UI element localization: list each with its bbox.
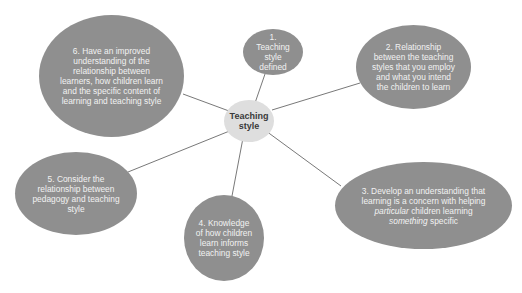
node-2-line: 2. Relationship: [372, 42, 455, 52]
node-1-line: 1.: [256, 32, 290, 42]
node-1-line: Teaching: [256, 42, 290, 52]
node-5-line: style: [32, 204, 119, 214]
node-6-line: relationship between: [60, 66, 163, 76]
node-1-line: defined: [256, 62, 290, 72]
node-1: 1. Teaching style defined: [243, 29, 303, 75]
node-5-line: pedagogy and teaching: [32, 194, 119, 204]
node-4-line: teaching style: [196, 248, 252, 258]
node-1-line: style: [256, 52, 290, 62]
node-2-line: between the teaching: [372, 52, 455, 62]
node-6-line: learners, how children learn: [60, 76, 163, 86]
node-3-line-italic: something specific: [362, 216, 486, 226]
node-6-line: understanding of the: [60, 56, 163, 66]
node-6-line: and the specific content of: [60, 86, 163, 96]
center-node: Teaching style: [224, 100, 274, 142]
node-3: 3. Develop an understanding that learnin…: [335, 162, 512, 249]
node-2-line: and what you intend: [372, 72, 455, 82]
node-5-line: relationship between: [32, 184, 119, 194]
node-2-line: the children to learn: [372, 82, 455, 92]
node-6: 6. Have an improved understanding of the…: [39, 15, 184, 137]
node-2-line: styles that you employ: [372, 62, 455, 72]
node-6-line: learning and teaching style: [60, 96, 163, 106]
node-5-line: 5. Consider the: [32, 174, 119, 184]
node-4-line: of how children: [196, 228, 252, 238]
node-3-line-italic: particular children learning: [362, 206, 486, 216]
node-2: 2. Relationship between the teaching sty…: [356, 25, 471, 109]
node-4: 4. Knowledge of how children learn infor…: [184, 195, 264, 281]
node-3-line: 3. Develop an understanding that: [362, 186, 486, 196]
center-label: Teaching style: [229, 111, 269, 132]
node-5: 5. Consider the relationship between ped…: [15, 152, 137, 235]
node-4-line: 4. Knowledge: [196, 218, 252, 228]
node-4-line: learn informs: [196, 238, 252, 248]
node-6-line: 6. Have an improved: [60, 46, 163, 56]
node-3-line: learning is a concern with helping: [362, 196, 486, 206]
